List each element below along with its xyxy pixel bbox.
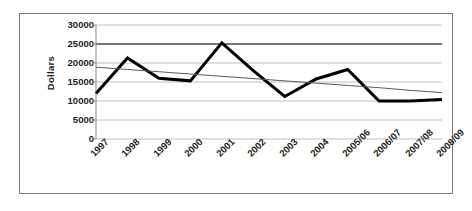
chart-plot-area: Dollars 30000 25000 20000 15000 10000 50… (20, 14, 454, 195)
x-tick-label: 1997 (88, 136, 111, 159)
x-tick-label: 2008/09 (434, 127, 466, 159)
x-tick-label: 1998 (119, 136, 142, 159)
x-tick-label: 2000 (182, 136, 205, 159)
x-tick-label: 2003 (277, 136, 300, 159)
x-tick-label: 2005/06 (340, 127, 372, 159)
x-tick-label: 1999 (151, 136, 174, 159)
x-tick-label: 2002 (245, 136, 268, 159)
x-axis-tick-labels: 199719981999200020012002200320042005/062… (20, 14, 454, 195)
x-tick-label: 2001 (214, 136, 237, 159)
x-tick-label: 2007/08 (403, 127, 435, 159)
x-tick-label: 2006/07 (371, 127, 403, 159)
chart-frame: Dollars 30000 25000 20000 15000 10000 50… (19, 13, 453, 194)
x-tick-label: 2004 (308, 136, 331, 159)
